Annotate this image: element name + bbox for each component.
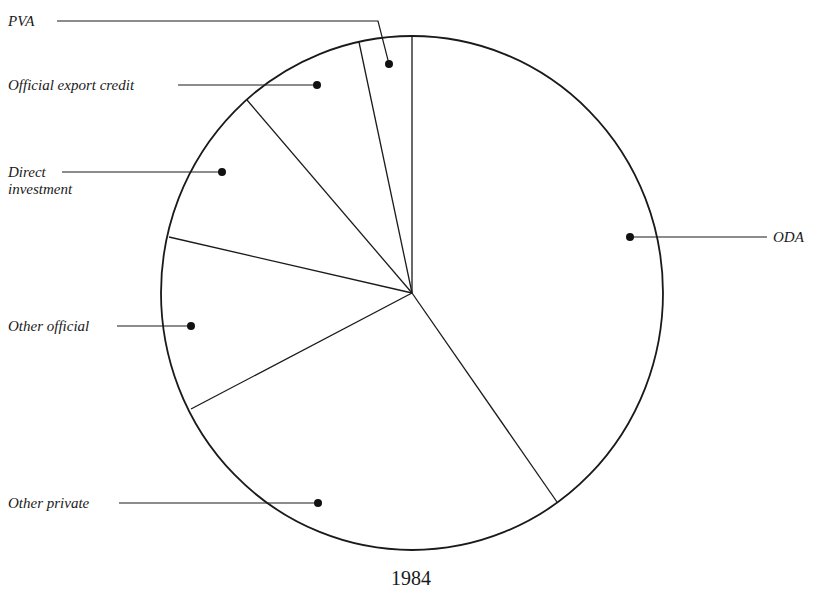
boundary-export-credit-direct-investment xyxy=(247,100,412,293)
label-other-private-text: Other private xyxy=(8,495,90,511)
leader-line-pva xyxy=(57,21,389,64)
slice-boundaries xyxy=(169,36,557,502)
boundary-direct-investment-other-official xyxy=(169,237,412,293)
label-direct-line2: investment xyxy=(8,181,73,197)
label-other-official: Other official xyxy=(8,318,195,334)
label-other-official-text: Other official xyxy=(8,318,89,334)
boundary-other-private-oda xyxy=(412,293,557,502)
marker-dot-other-private xyxy=(314,499,322,507)
marker-dot-other-official xyxy=(187,322,195,330)
label-export-credit-text: Official export credit xyxy=(8,77,135,93)
marker-dot-direct-investment xyxy=(218,168,226,176)
label-oda: ODA xyxy=(626,229,805,245)
label-pva-text: PVA xyxy=(7,13,35,29)
boundary-other-official-other-private xyxy=(191,293,412,409)
boundary-pva-export-credit xyxy=(359,42,412,293)
label-direct-line1: Direct xyxy=(7,164,47,180)
label-export-credit: Official export credit xyxy=(8,77,321,93)
pie-chart: PVA Official export credit Direct invest… xyxy=(0,0,818,593)
label-oda-text: ODA xyxy=(773,229,805,245)
chart-caption-year: 1984 xyxy=(391,567,431,589)
marker-dot-pva xyxy=(385,60,393,68)
label-pva: PVA xyxy=(7,13,393,68)
marker-dot-export-credit xyxy=(313,81,321,89)
